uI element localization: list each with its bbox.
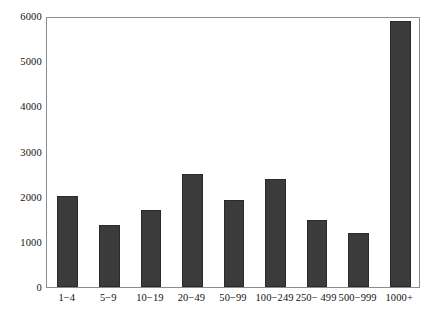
x-axis-tick-label: 1000+ [378, 292, 420, 303]
bar [141, 210, 162, 287]
y-axis-tick-label: 2000 [0, 193, 42, 203]
cropped-caption-remnant [66, 0, 366, 4]
x-axis-tick-label: 100−249 [254, 292, 296, 303]
bar [99, 225, 120, 287]
x-axis-tick-label: 10−19 [129, 292, 171, 303]
bar [182, 174, 203, 287]
x-axis-tick-label: 50−99 [212, 292, 254, 303]
x-axis-tick-label: 1−4 [46, 292, 88, 303]
y-axis-tick-label: 3000 [0, 148, 42, 158]
y-axis-tick-label: 1000 [0, 238, 42, 248]
x-axis-tick-label: 500−999 [337, 292, 379, 303]
bar [265, 179, 286, 287]
plot-area [47, 18, 419, 287]
y-axis-tick-label: 4000 [0, 102, 42, 112]
bar-chart-figure: 1−45−910−1920−4950−99100−249250− 499500−… [0, 0, 432, 311]
x-axis-tick-label: 20−49 [171, 292, 213, 303]
bar [57, 196, 78, 287]
bar [307, 220, 328, 287]
bar [224, 200, 245, 287]
x-axis-tick-label: 250− 499 [295, 292, 337, 303]
bar [390, 21, 411, 287]
y-axis-tick-label: 6000 [0, 12, 42, 22]
plot-frame [46, 17, 420, 288]
y-axis-tick-label: 5000 [0, 57, 42, 67]
bar [348, 233, 369, 287]
y-axis-tick-label: 0 [0, 283, 42, 293]
x-axis-tick-label: 5−9 [88, 292, 130, 303]
